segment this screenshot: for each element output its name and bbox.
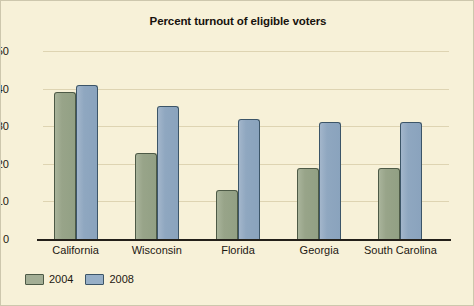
x-axis-tick-label: Florida xyxy=(221,244,255,256)
chart-legend: 20042008 xyxy=(25,273,134,285)
x-axis-tick-label: South Carolina xyxy=(364,244,437,256)
legend-item-2008[interactable]: 2008 xyxy=(85,273,133,285)
bar-florida-2008 xyxy=(238,119,260,239)
bar-wisconsin-2008 xyxy=(157,106,179,239)
legend-label-2008: 2008 xyxy=(109,273,133,285)
y-axis-tick-label: 20 xyxy=(0,158,9,170)
bar-group xyxy=(135,51,179,239)
x-axis-tick-label: Georgia xyxy=(300,244,339,256)
bar-group xyxy=(297,51,341,239)
bar-south-carolina-2004 xyxy=(378,168,400,239)
y-axis-tick-label: 50 xyxy=(0,45,9,57)
x-axis-tick-label: California xyxy=(52,244,98,256)
x-axis-baseline xyxy=(37,239,451,241)
x-axis-tick-label: Wisconsin xyxy=(132,244,182,256)
chart-figure: Percent turnout of eligible voters 01020… xyxy=(0,0,474,306)
bar-group xyxy=(216,51,260,239)
bar-georgia-2004 xyxy=(297,168,319,239)
bar-south-carolina-2008 xyxy=(400,122,422,239)
legend-swatch-2004 xyxy=(25,274,44,285)
bar-series-container xyxy=(43,51,449,239)
bar-florida-2004 xyxy=(216,190,238,239)
bar-california-2008 xyxy=(76,85,98,239)
bar-california-2004 xyxy=(54,92,76,239)
y-axis-tick-label: 40 xyxy=(0,83,9,95)
bar-group xyxy=(378,51,422,239)
bar-group xyxy=(54,51,98,239)
legend-item-2004[interactable]: 2004 xyxy=(25,273,73,285)
legend-label-2004: 2004 xyxy=(49,273,73,285)
legend-swatch-2008 xyxy=(85,274,104,285)
bar-georgia-2008 xyxy=(319,122,341,239)
chart-title: Percent turnout of eligible voters xyxy=(1,15,474,27)
y-axis-tick-label: 0 xyxy=(0,233,9,245)
bar-wisconsin-2004 xyxy=(135,153,157,239)
y-axis-tick-label: 30 xyxy=(0,120,9,132)
y-axis-tick-label: 10 xyxy=(0,195,9,207)
